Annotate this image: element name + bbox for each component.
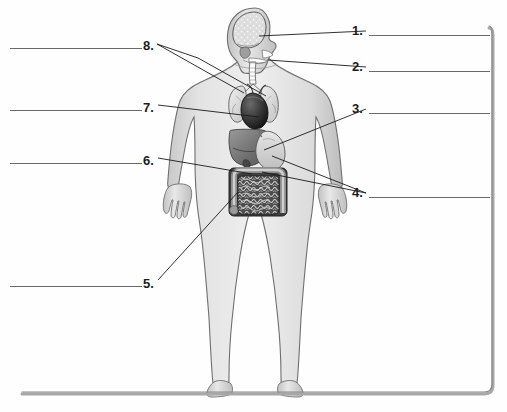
leader-line-1 <box>259 31 366 36</box>
leader-line-2 <box>268 60 366 67</box>
worksheet-page: 1. 2. 3. 4. 8. 7. 6. 5. <box>0 0 507 412</box>
human-body-anatomy-illustration <box>0 0 507 412</box>
small-intestine-organ <box>238 176 279 214</box>
